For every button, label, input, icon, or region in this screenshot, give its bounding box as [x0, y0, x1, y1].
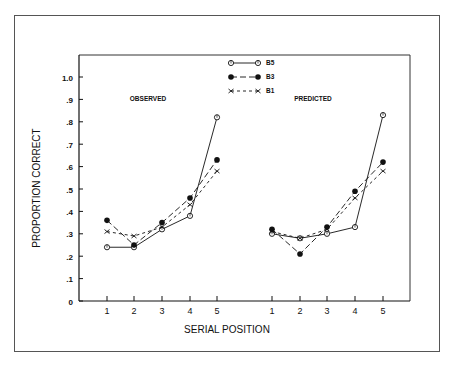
y-axis-label: PROPORTION CORRECT [31, 128, 42, 247]
y-tick-label: .2 [66, 253, 73, 262]
x-tick-label: 3 [159, 306, 164, 316]
x-tick-label: 1 [104, 306, 109, 316]
legend-marker-b5 [228, 60, 233, 65]
data-point-b5 [214, 115, 219, 120]
panel-label-observed: OBSERVED [130, 95, 167, 102]
y-tick-label: .3 [66, 230, 73, 239]
y-tick-label: 0 [69, 298, 74, 307]
data-point-b1 [215, 169, 220, 173]
legend-label-b1: B1 [266, 87, 275, 94]
legend-label-b5: B5 [266, 59, 275, 66]
x-tick-label: 5 [214, 306, 219, 316]
data-point-b3 [380, 159, 386, 165]
data-point-b3 [104, 218, 110, 224]
x-tick-label: 1 [269, 306, 274, 316]
legend-marker-b3 [255, 74, 261, 80]
data-point-b3 [352, 188, 358, 194]
legend-marker-b3 [228, 74, 234, 80]
data-point-b5 [187, 213, 192, 218]
y-tick-label: 1.0 [62, 74, 74, 83]
data-point-b1 [381, 169, 386, 173]
data-point-b5 [104, 245, 109, 250]
series-line-predicted-b3 [272, 162, 383, 254]
x-tick-label: 2 [297, 306, 302, 316]
x-tick-label: 5 [380, 306, 385, 316]
data-point-b5 [352, 224, 357, 229]
x-axis-label: SERIAL POSITION [184, 324, 270, 335]
y-tick-label: .9 [66, 96, 73, 105]
y-tick-label: .1 [66, 275, 73, 284]
data-point-b1 [188, 203, 193, 207]
y-tick-label: .7 [66, 141, 73, 150]
data-point-b3 [159, 220, 165, 226]
x-tick-label: 2 [131, 306, 136, 316]
data-point-b5 [324, 231, 329, 236]
serial-position-chart: 0.1.2.3.4.5.6.7.8.91.0PROPORTION CORRECT… [0, 0, 453, 368]
y-tick-label: .6 [66, 163, 73, 172]
x-tick-label: 3 [324, 306, 329, 316]
y-tick-label: .8 [66, 118, 73, 127]
data-point-b3 [187, 195, 193, 201]
series-line-predicted-b5 [272, 115, 383, 238]
y-tick-label: .5 [66, 186, 73, 195]
data-point-b3 [214, 157, 220, 163]
data-point-b3 [297, 251, 303, 257]
legend-label-b3: B3 [266, 73, 275, 80]
y-tick-label: .4 [66, 208, 73, 217]
x-tick-label: 4 [187, 306, 192, 316]
data-point-b3 [131, 242, 137, 248]
legend-marker-b5 [255, 60, 260, 65]
data-point-b5 [380, 112, 385, 117]
panel-label-predicted: PREDICTED [294, 95, 332, 102]
x-tick-label: 4 [352, 306, 357, 316]
data-point-b1 [353, 196, 358, 200]
